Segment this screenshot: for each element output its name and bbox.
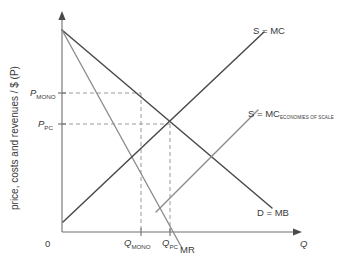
price-labels: PMONO PPC <box>30 87 56 131</box>
curve-marginal-revenue <box>62 30 182 248</box>
economics-diagram: price, costs and revenues / $ (P) <box>0 0 352 256</box>
price-mono-label: PMONO <box>30 87 56 100</box>
label-demand-mb: D = MB <box>257 207 289 218</box>
origin-label: 0 <box>45 238 50 249</box>
x-axis-name: Q <box>300 238 308 249</box>
quantity-pc-label: QPC <box>162 237 179 250</box>
curve-demand-mb <box>62 30 272 208</box>
y-axis-label: price, costs and revenues / $ (P) <box>9 66 20 210</box>
label-supply-mc: S = MC <box>253 25 285 36</box>
axis-ticks <box>58 93 170 236</box>
quantity-mono-label: QMONO <box>124 237 151 250</box>
label-marginal-revenue: MR <box>180 244 195 255</box>
curve-supply-mc <box>63 32 264 222</box>
label-supply-mc-economies-of-scale: S = MCECONOMIES OF SCALE <box>248 108 334 120</box>
curves <box>62 30 272 248</box>
y-axis-arrow-icon <box>58 11 65 20</box>
curve-supply-mc-economies-of-scale <box>156 110 258 212</box>
x-axis-arrow-icon <box>293 228 302 235</box>
quantity-labels: QMONO QPC <box>124 237 179 250</box>
price-pc-label: PPC <box>38 118 53 131</box>
guide-lines <box>62 93 170 232</box>
